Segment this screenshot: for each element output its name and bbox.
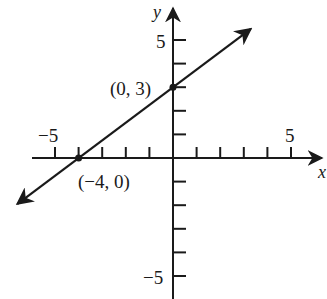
x-tick-label-5: 5 xyxy=(285,125,295,146)
point-0-3 xyxy=(170,84,177,91)
y-tick-label-5: 5 xyxy=(156,31,166,52)
x-axis-label: x xyxy=(317,162,326,182)
x-tick-label-neg5: −5 xyxy=(38,125,58,146)
data-line xyxy=(17,29,251,204)
point-label-neg4-0: (−4, 0) xyxy=(78,171,130,193)
y-tick-label-neg5: −5 xyxy=(143,267,163,288)
point-label-0-3: (0, 3) xyxy=(110,78,151,100)
coordinate-plane: y x −5 5 5 −5 (0, 3) (−4, 0) xyxy=(0,0,327,299)
point-neg4-0 xyxy=(75,155,82,162)
y-axis-label: y xyxy=(151,2,161,22)
